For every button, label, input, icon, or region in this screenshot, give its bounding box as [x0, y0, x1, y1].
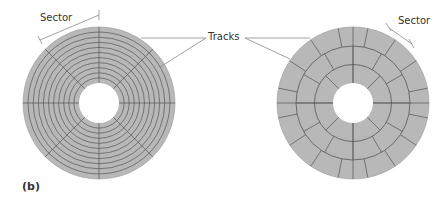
tracks-label: Tracks	[208, 31, 239, 42]
left-sector-label: Sector	[40, 12, 72, 23]
panel-label: (b)	[22, 180, 40, 193]
right-disk	[277, 27, 429, 179]
left-disk	[23, 27, 175, 179]
right-sector-label: Sector	[398, 15, 430, 26]
